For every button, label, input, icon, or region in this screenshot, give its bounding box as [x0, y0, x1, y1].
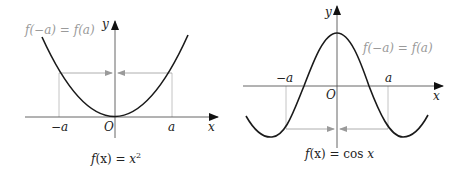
parabola-diagram: f(−a) = f(a) y x O −a a f(x) = x2: [24, 17, 218, 166]
annotation-even: f(−a) = f(a): [362, 41, 433, 55]
caption-cosine: f(x) = cos x: [304, 147, 374, 161]
tick-neg-a: −a: [51, 120, 68, 134]
y-axis-label: y: [324, 5, 332, 19]
even-function-figure: f(−a) = f(a) y x O −a a f(x) = x2 f(−a) …: [0, 0, 462, 174]
tick-neg-a: −a: [276, 71, 293, 85]
cosine-diagram: f(−a) = f(a) y x O −a a f(x) = cos x: [243, 5, 443, 161]
caption-parabola: f(x) = x2: [90, 151, 141, 166]
y-axis-label: y: [101, 17, 109, 31]
annotation-even: f(−a) = f(a): [24, 23, 95, 37]
x-axis-label: x: [433, 89, 440, 103]
x-axis-label: x: [208, 120, 215, 134]
tick-pos-a: a: [385, 71, 392, 85]
tick-pos-a: a: [168, 120, 175, 134]
origin-label: O: [104, 120, 114, 134]
origin-label: O: [326, 88, 336, 102]
